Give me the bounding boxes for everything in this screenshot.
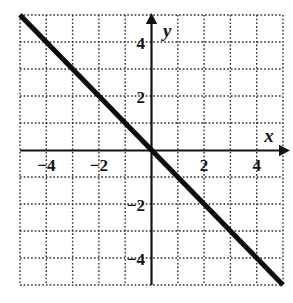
x-tick-label-neg4: −4 [37, 156, 56, 175]
coordinate-plane-figure: −4 −2 2 4 4 2 −2 −4 y x [0, 0, 293, 303]
y-tick-label-neg4: −4 [127, 250, 146, 269]
y-tick-label-pos2: 2 [137, 88, 146, 107]
y-tick-label-pos4: 4 [137, 34, 146, 53]
y-tick-label-neg2: −2 [127, 196, 145, 215]
x-tick-label-neg2: −2 [90, 156, 108, 175]
x-tick-label-pos2: 2 [200, 156, 209, 175]
y-axis-label: y [161, 20, 172, 41]
x-axis-label: x [263, 125, 274, 146]
coordinate-plane-svg: −4 −2 2 4 4 2 −2 −4 y x [0, 0, 293, 303]
x-tick-label-pos4: 4 [252, 156, 261, 175]
